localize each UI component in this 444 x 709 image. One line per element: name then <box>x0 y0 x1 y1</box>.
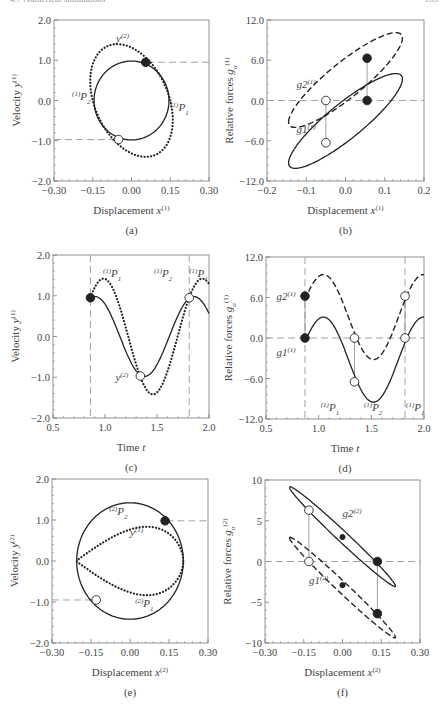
y-tick-label: 12.0 <box>246 15 264 26</box>
x-tick-label: 0.00 <box>121 647 139 658</box>
x-tick-label: 0.30 <box>411 647 429 658</box>
chart-f: −0.30−0.150.000.150.30−10−50510Displacem… <box>221 475 429 699</box>
svg-text:(1)P1: (1)P1 <box>321 401 339 417</box>
x-tick-label: 0.00 <box>122 185 140 196</box>
data-marker <box>401 292 410 301</box>
chart-c: 0.51.01.52.0−2.0−1.00.01.02.0Time tVeloc… <box>9 250 216 474</box>
x-tick-label: 0.1 <box>378 185 391 196</box>
data-marker <box>373 557 382 566</box>
y-tick-label: −1.0 <box>31 372 50 383</box>
y-axis-label: Relative forces gα(2) <box>221 518 237 605</box>
subfigure-caption: (a) <box>125 224 138 237</box>
y-tick-label: 10 <box>252 475 263 486</box>
x-tick-label: 1.5 <box>365 423 378 434</box>
data-marker <box>363 54 372 63</box>
svg-text:g1(1): g1(1) <box>277 346 297 358</box>
x-tick-label: −0.1 <box>297 185 316 196</box>
y-tick-label: −10 <box>246 638 262 649</box>
x-tick-label: 1.0 <box>312 423 325 434</box>
svg-text:g1(2): g1(2) <box>309 574 329 586</box>
x-tick-label: 0.2 <box>417 185 430 196</box>
x-tick-label: 0.30 <box>200 185 218 196</box>
y-axis-label: Relative forces gα(1) <box>222 294 238 381</box>
x-axis-label: Displacement x(2) <box>304 666 381 678</box>
plot-frame <box>54 20 209 181</box>
series-g1-1- <box>305 317 424 402</box>
x-tick-label: 0.15 <box>161 185 179 196</box>
svg-text:(1)P2: (1)P2 <box>72 90 91 106</box>
y-tick-label: 1.0 <box>37 291 50 302</box>
data-marker <box>141 58 150 67</box>
x-tick-label: 2.0 <box>202 422 215 433</box>
y-tick-label: −6.0 <box>245 136 264 147</box>
x-tick-label: −0.15 <box>81 185 105 196</box>
data-marker <box>373 609 382 618</box>
x-axis-label: Time t <box>117 441 147 453</box>
data-marker <box>301 334 310 343</box>
data-marker <box>340 534 345 539</box>
chart-a: −0.30−0.150.000.150.30−2.0−1.00.01.02.0D… <box>10 15 218 237</box>
y-tick-label: −2.0 <box>30 638 49 649</box>
y-axis-label: Relative forces gα(1) <box>223 57 239 144</box>
data-marker <box>401 334 410 343</box>
svg-text:(2)P2: (2)P2 <box>109 505 128 521</box>
y-tick-label: 2.0 <box>37 250 50 261</box>
x-axis-label: Displacement x(2) <box>92 666 169 678</box>
svg-text:(1)P2: (1)P2 <box>364 401 383 417</box>
svg-text:(1)P1: (1)P1 <box>170 101 188 117</box>
y-tick-label: 1.0 <box>38 55 51 66</box>
chart-d: 0.51.01.52.0−12.0−6.00.06.012.0Time tRel… <box>222 252 431 475</box>
plot-frame <box>52 479 208 643</box>
series-y-1- <box>90 297 209 377</box>
data-marker <box>161 517 170 526</box>
data-marker <box>185 293 194 302</box>
x-tick-label: 2.0 <box>417 423 430 434</box>
y-tick-label: 0.0 <box>38 96 51 107</box>
x-tick-label: 0.15 <box>372 647 390 658</box>
y-tick-label: 0 <box>257 557 262 568</box>
data-marker <box>136 372 145 381</box>
data-marker <box>350 334 359 343</box>
y-axis-label: Velocity y(1) <box>9 310 21 363</box>
data-marker <box>305 506 314 515</box>
x-tick-label: −0.15 <box>79 647 103 658</box>
y-tick-label: 6.0 <box>251 55 264 66</box>
data-marker <box>340 583 345 588</box>
subfigure-caption: (b) <box>339 224 352 237</box>
y-tick-label: 1.0 <box>36 515 49 526</box>
x-tick-label: 0.00 <box>333 647 351 658</box>
svg-text:y(2): y(2) <box>115 32 130 44</box>
svg-text:g2(1): g2(1) <box>277 290 297 302</box>
y-tick-label: −1.0 <box>30 597 49 608</box>
data-marker <box>301 292 310 301</box>
y-tick-label: 0.0 <box>250 333 263 344</box>
svg-text:y(2): y(2) <box>114 371 129 383</box>
y-axis-label: Velocity y(2) <box>8 534 20 587</box>
svg-text:(1)P1: (1)P1 <box>103 267 121 283</box>
y-tick-label: −1.0 <box>32 136 51 147</box>
y-tick-label: 5 <box>257 516 262 527</box>
svg-text:(1)P2: (1)P2 <box>154 267 173 283</box>
data-marker <box>322 138 331 147</box>
y-tick-label: 0.0 <box>37 332 50 343</box>
y-tick-label: −12.0 <box>239 414 263 425</box>
data-marker <box>114 135 123 144</box>
y-tick-label: 12.0 <box>245 252 263 263</box>
x-tick-label: 0.15 <box>160 647 178 658</box>
subfigure-caption: (f) <box>337 686 348 699</box>
svg-text:g1(1): g1(1) <box>296 123 316 135</box>
y-axis-label: Velocity y(1) <box>10 74 22 127</box>
data-marker <box>322 96 331 105</box>
x-tick-label: 1.5 <box>150 422 163 433</box>
y-tick-label: 0.0 <box>36 556 49 567</box>
y-tick-label: 2.0 <box>36 474 49 485</box>
x-axis-label: Displacement x(1) <box>307 204 384 216</box>
y-tick-label: 6.0 <box>250 293 263 304</box>
x-tick-label: 0.30 <box>199 647 217 658</box>
y-tick-label: −6.0 <box>244 374 263 385</box>
svg-text:g2(1): g2(1) <box>296 78 316 90</box>
subfigure-caption: (c) <box>125 461 138 474</box>
data-marker <box>350 378 359 387</box>
figure: −0.30−0.150.000.150.30−2.0−1.00.01.02.0D… <box>0 0 444 709</box>
x-tick-label: −0.15 <box>292 647 316 658</box>
